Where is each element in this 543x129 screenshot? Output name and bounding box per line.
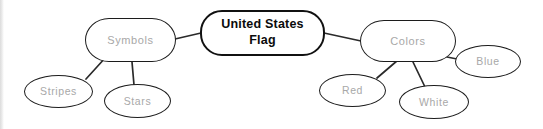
node-colors-label: Colors — [390, 35, 425, 48]
node-stars[interactable]: Stars — [104, 84, 171, 118]
node-root-label: United States Flag — [221, 17, 303, 48]
edge-white-colors — [413, 62, 425, 87]
node-symbols-label: Symbols — [107, 34, 153, 47]
node-stripes[interactable]: Stripes — [24, 75, 93, 108]
edge-root-colors — [324, 33, 361, 41]
node-colors[interactable]: Colors — [360, 20, 456, 62]
edge-symbols-root — [175, 33, 201, 39]
node-stars-label: Stars — [124, 95, 152, 107]
node-blue-label: Blue — [476, 55, 499, 67]
node-stripes-label: Stripes — [40, 85, 77, 97]
edge-red-colors — [377, 60, 398, 78]
node-red[interactable]: Red — [319, 74, 386, 107]
node-white-label: White — [419, 96, 449, 108]
node-blue[interactable]: Blue — [455, 45, 521, 78]
node-symbols[interactable]: Symbols — [85, 18, 176, 62]
node-red-label: Red — [342, 84, 363, 96]
node-root[interactable]: United States Flag — [200, 10, 325, 56]
mind-map-canvas: United States Flag Symbols Colors Stripe… — [0, 0, 543, 129]
node-white[interactable]: White — [399, 85, 469, 119]
edge-stars-symbols — [132, 62, 134, 85]
